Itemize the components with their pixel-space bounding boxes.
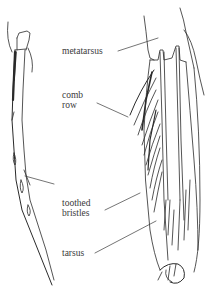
label-comb-row: comb row bbox=[62, 90, 83, 110]
right-leg-segment bbox=[130, 8, 204, 283]
label-comb-row-line1: comb bbox=[62, 90, 83, 100]
leader-lines bbox=[25, 38, 158, 253]
label-toothed-line1: toothed bbox=[62, 198, 91, 208]
label-metatarsus: metatarsus bbox=[62, 46, 103, 56]
label-comb-row-line2: row bbox=[62, 100, 83, 110]
leg-drawing bbox=[0, 0, 205, 293]
leader-comb-row bbox=[97, 103, 128, 117]
leader-toothed-bristles-right bbox=[105, 193, 140, 210]
label-tarsus: tarsus bbox=[62, 248, 84, 258]
leader-metatarsus bbox=[118, 38, 158, 51]
leg-diagram: metatarsus comb row toothed bristles tar… bbox=[0, 0, 205, 293]
left-leg-segment bbox=[8, 22, 55, 285]
leader-tarsus bbox=[95, 221, 156, 253]
label-toothed-line2: bristles bbox=[62, 208, 91, 218]
label-toothed-bristles: toothed bristles bbox=[62, 198, 91, 218]
